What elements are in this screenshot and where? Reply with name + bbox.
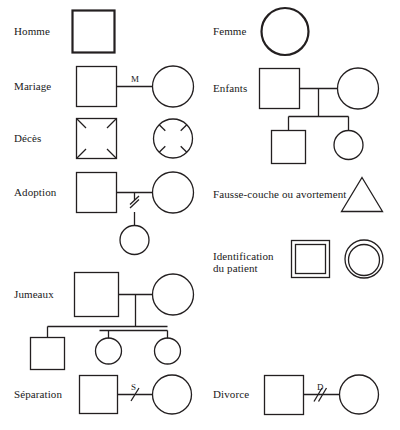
symbol-femme-circle (262, 8, 309, 55)
row-label-adoption: Adoption (14, 186, 56, 199)
symbol-jumeaux-twin-2-circle (155, 338, 181, 364)
row-label-fausse-couche: Fausse-couche ou avortement (213, 188, 346, 201)
symbol-jumeaux-mother-circle (153, 274, 194, 315)
symbol-jumeaux-son-square (31, 338, 65, 370)
legend-artwork (0, 0, 400, 430)
symbol-enfants-son-square (272, 131, 306, 164)
symbol-divorce-circle (340, 375, 379, 414)
symbol-mariage-circle (153, 66, 194, 107)
symbol-fausse-couche-triangle (342, 178, 383, 212)
connector-label-mariage-m: M (131, 74, 139, 84)
symbol-identification-square-outer (292, 241, 330, 278)
row-label-divorce: Divorce (213, 388, 249, 401)
symbol-enfants-father-square (260, 69, 300, 109)
symbol-deces-square-corner-ticks (77, 119, 117, 159)
row-label-homme: Homme (14, 25, 50, 38)
row-label-identification-patient-line2: du patient (213, 262, 258, 275)
connector-label-divorce-d: D (317, 382, 324, 392)
symbol-enfants-daughter-circle (334, 131, 363, 160)
row-label-femme: Femme (213, 25, 247, 38)
symbol-separation-circle (153, 375, 192, 414)
symbol-jumeaux-father-square (75, 273, 119, 317)
symbol-divorce-square (265, 376, 304, 415)
symbol-adoption-circle (153, 172, 194, 213)
symbol-adoption-square (77, 173, 117, 213)
row-label-enfants: Enfants (213, 82, 247, 95)
connector-label-separation-s: S (131, 382, 136, 392)
row-label-identification-patient-line1: Identification (213, 250, 274, 263)
symbol-homme-square (73, 11, 115, 53)
symbol-enfants-mother-circle (338, 68, 379, 109)
symbol-identification-square-inner (296, 245, 326, 274)
symbol-mariage-square (77, 67, 117, 107)
row-label-deces: Décès (14, 132, 41, 145)
row-label-separation: Séparation (14, 388, 62, 401)
row-label-mariage: Mariage (14, 80, 51, 93)
symbol-jumeaux-twin-1-circle (96, 338, 122, 364)
genogram-legend: Homme Mariage Décès Adoption Jumeaux Sép… (0, 0, 400, 430)
symbol-identification-circle-inner (349, 245, 380, 276)
symbol-adoption-child-circle (120, 226, 149, 255)
symbol-deces-circle-diagonal-ticks (159, 125, 187, 153)
row-label-jumeaux: Jumeaux (14, 288, 54, 301)
symbol-identification-circle-outer (345, 240, 383, 278)
symbol-separation-square (80, 376, 118, 414)
